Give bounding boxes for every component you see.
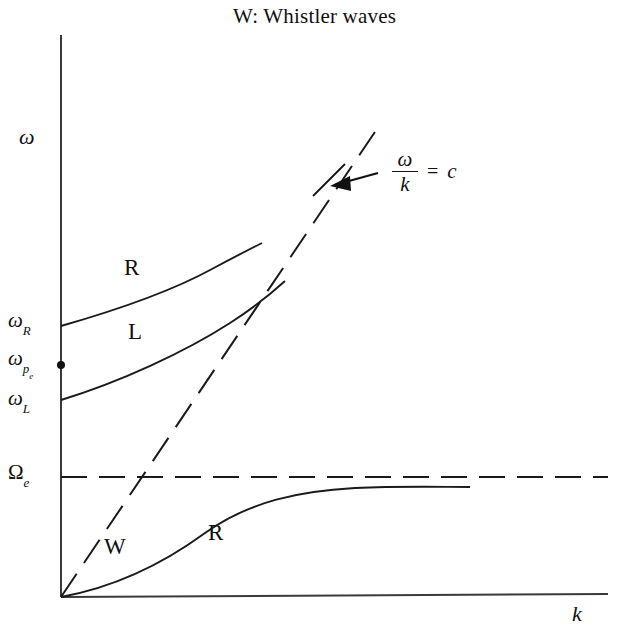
- y-tick-omega-l-base: ω: [8, 386, 23, 410]
- y-tick-omega-ce-subscript: e: [24, 475, 30, 490]
- curve-l: [61, 281, 285, 400]
- light-line-annotation-arrow: [313, 164, 378, 196]
- y-tick-omega-pe: ωpe: [8, 348, 33, 376]
- speed-of-light-symbol: c: [447, 159, 456, 184]
- fraction-denominator: k: [396, 172, 413, 195]
- x-axis: [61, 594, 608, 597]
- y-tick-omega-l-subscript: L: [23, 401, 30, 416]
- y-tick-omega-pe-base: ω: [8, 346, 23, 370]
- y-tick-omega-l: ωL: [8, 388, 30, 412]
- y-tick-omega-r-subscript: R: [23, 323, 31, 338]
- dispersion-plot: [0, 0, 629, 635]
- y-axis-label: ω: [19, 126, 35, 148]
- whistler-dispersion-figure: W: Whistler waves ω k ωR ωpe: [0, 0, 629, 635]
- omega-pe-dot-marker: [57, 361, 65, 369]
- y-tick-omega-ce-base: Ω: [8, 460, 24, 484]
- equals-sign: =: [427, 160, 438, 183]
- y-tick-omega-ce: Ωe: [8, 462, 29, 486]
- y-tick-omega-r-base: ω: [8, 308, 23, 332]
- curve-label-w: W: [104, 535, 126, 558]
- y-tick-omega-pe-subscript: pe: [23, 361, 34, 376]
- light-line-annotation: ω k = c: [392, 148, 457, 196]
- y-tick-omega-r: ωR: [8, 310, 31, 334]
- curve-label-l: L: [128, 320, 142, 343]
- fraction-numerator: ω: [394, 148, 417, 171]
- curve-label-r-upper: R: [124, 256, 139, 279]
- curve-r-upper: [61, 243, 262, 326]
- curve-label-r-lower: R: [208, 521, 223, 544]
- omega-over-k-fraction: ω k: [392, 148, 418, 196]
- y-tick-omega-pe-sub-e: e: [29, 371, 33, 381]
- x-axis-label: k: [572, 603, 582, 625]
